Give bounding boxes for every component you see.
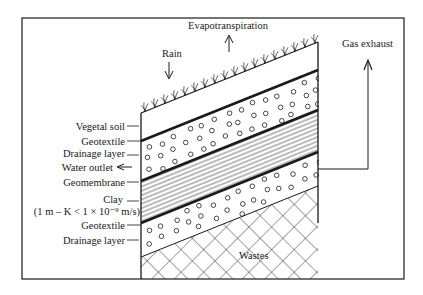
pebble xyxy=(236,189,241,194)
pebble xyxy=(250,127,255,132)
pebble xyxy=(197,203,202,208)
pebble xyxy=(250,100,255,105)
pebble xyxy=(239,108,244,113)
pebble xyxy=(237,131,242,136)
pebble xyxy=(147,228,152,233)
diagram-canvas: Evapotranspiration Rain Gas exhaust Wast… xyxy=(0,0,423,295)
pebble xyxy=(291,172,296,177)
pebble xyxy=(173,159,178,164)
pebble xyxy=(158,153,163,158)
pebble xyxy=(211,141,216,146)
pebble xyxy=(197,136,202,141)
pebble xyxy=(145,155,150,160)
pebble xyxy=(263,98,268,103)
pebble xyxy=(188,152,193,157)
pebble xyxy=(313,88,318,93)
pebble xyxy=(210,128,215,133)
pebble xyxy=(158,224,163,229)
pebble xyxy=(147,167,152,172)
label-vegetal-soil: Vegetal soil xyxy=(76,121,125,132)
pebble xyxy=(275,94,280,99)
pebble xyxy=(199,214,204,219)
pebble xyxy=(227,122,232,127)
pebble xyxy=(276,186,281,191)
pebble xyxy=(211,203,216,208)
pebble xyxy=(304,93,309,98)
pebble xyxy=(188,126,193,131)
rain-label: Rain xyxy=(162,48,183,59)
pebble xyxy=(186,220,191,225)
label-geotextile-bottom: Geotextile xyxy=(81,220,125,231)
pebble xyxy=(236,120,241,125)
pebble xyxy=(225,196,230,201)
pebble xyxy=(265,187,270,192)
pebble xyxy=(289,112,294,117)
pebble xyxy=(159,234,164,239)
water-outlet-label: Water outlet xyxy=(62,162,113,173)
pebble xyxy=(289,185,294,190)
pebble xyxy=(241,202,246,207)
evapotranspiration-label: Evapotranspiration xyxy=(188,20,269,31)
label-geotextile-top: Geotextile xyxy=(81,136,125,147)
label-clay-permeability: (1 m – K < 1 × 10⁻⁹ m/s) xyxy=(34,206,141,218)
pebble xyxy=(274,173,279,178)
pebble xyxy=(202,147,207,152)
label-drainage-layer-top: Drainage layer xyxy=(63,148,126,159)
pebble xyxy=(185,208,190,213)
pebble xyxy=(303,163,308,168)
pebble xyxy=(147,242,152,247)
pebble xyxy=(278,105,283,110)
pebble xyxy=(223,134,228,139)
pebble xyxy=(147,145,152,150)
pebble xyxy=(227,111,232,116)
pebble xyxy=(183,140,188,145)
pebble xyxy=(250,184,255,189)
pebble xyxy=(214,216,219,221)
pebble xyxy=(290,102,295,107)
pebble xyxy=(303,177,308,182)
label-geomembrane: Geomembrane xyxy=(63,177,125,188)
label-clay: Clay xyxy=(103,194,124,205)
pebble xyxy=(262,177,267,182)
pebble xyxy=(212,117,217,122)
leader-lines xyxy=(127,126,141,240)
pebble xyxy=(160,142,165,147)
pebble xyxy=(225,208,230,213)
pebble xyxy=(199,123,204,128)
pebble xyxy=(175,218,180,223)
pebble xyxy=(174,228,179,233)
landfill-diagram: Evapotranspiration Rain Gas exhaust Wast… xyxy=(0,0,423,295)
pebble xyxy=(262,123,267,128)
pebble xyxy=(196,224,201,229)
pebble xyxy=(251,198,256,203)
label-drainage-layer-bottom: Drainage layer xyxy=(63,235,126,246)
pebble xyxy=(171,134,176,139)
pebble xyxy=(291,90,296,95)
pebble xyxy=(302,80,307,85)
pebble xyxy=(171,147,176,152)
pebble xyxy=(263,111,268,116)
gas-exhaust-label: Gas exhaust xyxy=(342,38,393,49)
gas-exhaust-pipe xyxy=(318,62,368,169)
pebble xyxy=(261,200,266,205)
wastes-label: Wastes xyxy=(239,250,268,261)
pebble xyxy=(252,113,257,118)
pebble xyxy=(305,104,310,109)
